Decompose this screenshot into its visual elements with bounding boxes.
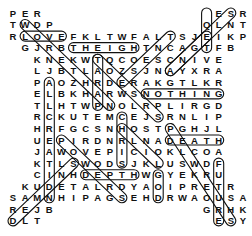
grid-letter[interactable]: I	[104, 42, 116, 53]
grid-letter[interactable]: S	[68, 158, 80, 169]
grid-letter[interactable]: H	[31, 123, 43, 134]
grid-letter[interactable]: Y	[164, 169, 176, 180]
grid-letter[interactable]: P	[55, 135, 67, 146]
grid-letter[interactable]: N	[176, 54, 188, 65]
grid-letter[interactable]: S	[7, 192, 19, 203]
grid-letter[interactable]: D	[92, 135, 104, 146]
grid-letter[interactable]: I	[189, 88, 201, 99]
grid-letter[interactable]: Y	[176, 65, 188, 76]
grid-letter[interactable]: H	[140, 192, 152, 203]
grid-letter[interactable]: W	[19, 19, 31, 30]
grid-letter[interactable]: E	[213, 215, 225, 226]
grid-letter[interactable]: E	[213, 54, 225, 65]
grid-letter[interactable]: G	[201, 204, 213, 215]
grid-letter[interactable]: A	[189, 135, 201, 146]
grid-letter[interactable]: T	[213, 181, 225, 192]
grid-letter[interactable]: T	[104, 31, 116, 42]
grid-letter[interactable]: L	[19, 215, 31, 226]
grid-letter[interactable]: O	[55, 77, 67, 88]
grid-letter[interactable]: T	[31, 215, 43, 226]
grid-letter[interactable]: R	[80, 135, 92, 146]
grid-letter[interactable]: K	[140, 158, 152, 169]
grid-letter[interactable]: I	[201, 111, 213, 122]
grid-letter[interactable]: L	[189, 77, 201, 88]
grid-letter[interactable]: F	[128, 31, 140, 42]
grid-letter[interactable]: R	[201, 65, 213, 76]
grid-letter[interactable]: U	[213, 169, 225, 180]
grid-letter[interactable]: R	[225, 181, 237, 192]
grid-letter[interactable]: N	[43, 192, 55, 203]
grid-letter[interactable]: R	[104, 88, 116, 99]
grid-letter[interactable]: E	[92, 42, 104, 53]
grid-letter[interactable]: L	[152, 158, 164, 169]
grid-letter[interactable]: K	[31, 158, 43, 169]
grid-letter[interactable]: I	[176, 100, 188, 111]
grid-letter[interactable]: W	[80, 54, 92, 65]
grid-letter[interactable]: R	[189, 181, 201, 192]
grid-letter[interactable]: V	[43, 31, 55, 42]
grid-letter[interactable]: N	[152, 65, 164, 76]
grid-letter[interactable]: E	[31, 88, 43, 99]
grid-letter[interactable]: K	[237, 204, 249, 215]
grid-letter[interactable]: H	[128, 169, 140, 180]
grid-letter[interactable]: H	[55, 192, 67, 203]
grid-letter[interactable]: J	[31, 146, 43, 157]
grid-letter[interactable]: R	[164, 192, 176, 203]
grid-letter[interactable]: S	[116, 192, 128, 203]
grid-letter[interactable]: O	[128, 123, 140, 134]
grid-letter[interactable]: E	[201, 31, 213, 42]
grid-letter[interactable]: G	[189, 42, 201, 53]
grid-letter[interactable]: W	[80, 158, 92, 169]
grid-letter[interactable]: M	[31, 192, 43, 203]
grid-letter[interactable]: R	[140, 100, 152, 111]
grid-letter[interactable]: K	[31, 54, 43, 65]
grid-letter[interactable]: A	[237, 192, 249, 203]
grid-letter[interactable]: N	[201, 88, 213, 99]
grid-letter[interactable]: A	[176, 42, 188, 53]
grid-letter[interactable]: O	[92, 158, 104, 169]
grid-letter[interactable]: E	[43, 135, 55, 146]
grid-letter[interactable]: L	[128, 135, 140, 146]
grid-letter[interactable]: D	[164, 135, 176, 146]
grid-letter[interactable]: E	[92, 111, 104, 122]
grid-letter[interactable]: A	[140, 31, 152, 42]
grid-letter[interactable]: O	[104, 65, 116, 76]
grid-letter[interactable]: R	[92, 77, 104, 88]
grid-letter[interactable]: S	[116, 158, 128, 169]
grid-letter[interactable]: J	[140, 111, 152, 122]
grid-letter[interactable]: T	[152, 123, 164, 134]
grid-letter[interactable]: Z	[68, 77, 80, 88]
grid-letter[interactable]: T	[80, 111, 92, 122]
grid-letter[interactable]: E	[140, 54, 152, 65]
grid-letter[interactable]: L	[189, 111, 201, 122]
grid-letter[interactable]: H	[80, 42, 92, 53]
grid-letter[interactable]: I	[140, 146, 152, 157]
grid-letter[interactable]: L	[80, 65, 92, 76]
grid-letter[interactable]: W	[116, 31, 128, 42]
grid-letter[interactable]: N	[152, 42, 164, 53]
grid-letter[interactable]: B	[225, 42, 237, 53]
grid-letter[interactable]: P	[31, 77, 43, 88]
grid-letter[interactable]: C	[116, 111, 128, 122]
grid-letter[interactable]: O	[152, 181, 164, 192]
grid-letter[interactable]: A	[92, 192, 104, 203]
grid-letter[interactable]: T	[68, 42, 80, 53]
grid-letter[interactable]: C	[189, 146, 201, 157]
grid-letter[interactable]: P	[152, 100, 164, 111]
grid-letter[interactable]: K	[68, 88, 80, 99]
grid-letter[interactable]: E	[55, 31, 67, 42]
grid-letter[interactable]: A	[213, 146, 225, 157]
grid-letter[interactable]: A	[152, 135, 164, 146]
grid-letter[interactable]: L	[92, 181, 104, 192]
grid-letter[interactable]: K	[55, 111, 67, 122]
grid-letter[interactable]: T	[140, 42, 152, 53]
grid-letter[interactable]: D	[43, 181, 55, 192]
grid-letter[interactable]: D	[213, 100, 225, 111]
grid-letter[interactable]: O	[201, 192, 213, 203]
grid-letter[interactable]: E	[92, 169, 104, 180]
grid-letter[interactable]: T	[68, 65, 80, 76]
grid-letter[interactable]: D	[104, 77, 116, 88]
grid-letter[interactable]: E	[116, 77, 128, 88]
grid-letter[interactable]: P	[213, 111, 225, 122]
grid-letter[interactable]: G	[104, 192, 116, 203]
